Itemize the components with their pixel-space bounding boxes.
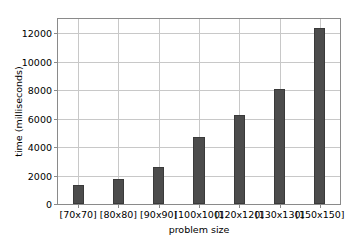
x-axis-label: problem size [57, 224, 341, 235]
x-tick-label: [90x90] [140, 209, 177, 220]
x-tick-label: [80x80] [100, 209, 137, 220]
x-tick-mark [280, 204, 281, 208]
y-tick-mark [54, 90, 58, 91]
y-tick-label: 6000 [28, 113, 52, 124]
y-tick-mark [54, 176, 58, 177]
y-tick-label: 12000 [22, 28, 52, 39]
x-tick-mark [118, 204, 119, 208]
y-axis-label: time (milliseconds) [12, 18, 26, 205]
y-tick-mark [54, 119, 58, 120]
bar [234, 115, 245, 204]
x-tick-mark [320, 204, 321, 208]
bar [153, 167, 164, 204]
y-tick-label: 0 [46, 199, 52, 210]
bar [73, 185, 84, 204]
x-tick-label: [70x70] [60, 209, 97, 220]
plot-area: 020004000600080001000012000 [70x70][80x8… [57, 18, 341, 205]
y-tick-label: 10000 [22, 56, 52, 67]
x-tick-label: [150x150] [295, 209, 344, 220]
bar-chart-figure: time (milliseconds) 02000400060008000100… [0, 0, 359, 247]
bar [193, 137, 204, 204]
y-tick-mark [54, 62, 58, 63]
bar [314, 28, 325, 204]
x-tick-mark [78, 204, 79, 208]
x-tick-mark [159, 204, 160, 208]
y-tick-mark [54, 204, 58, 205]
x-tick-mark [199, 204, 200, 208]
y-tick-label: 8000 [28, 85, 52, 96]
y-tick-mark [54, 147, 58, 148]
gridline-vertical [118, 19, 119, 204]
bar [274, 89, 285, 204]
y-tick-label: 4000 [28, 142, 52, 153]
x-tick-mark [239, 204, 240, 208]
y-tick-label: 2000 [28, 170, 52, 181]
y-tick-mark [54, 33, 58, 34]
gridline-vertical [78, 19, 79, 204]
bar [113, 179, 124, 204]
